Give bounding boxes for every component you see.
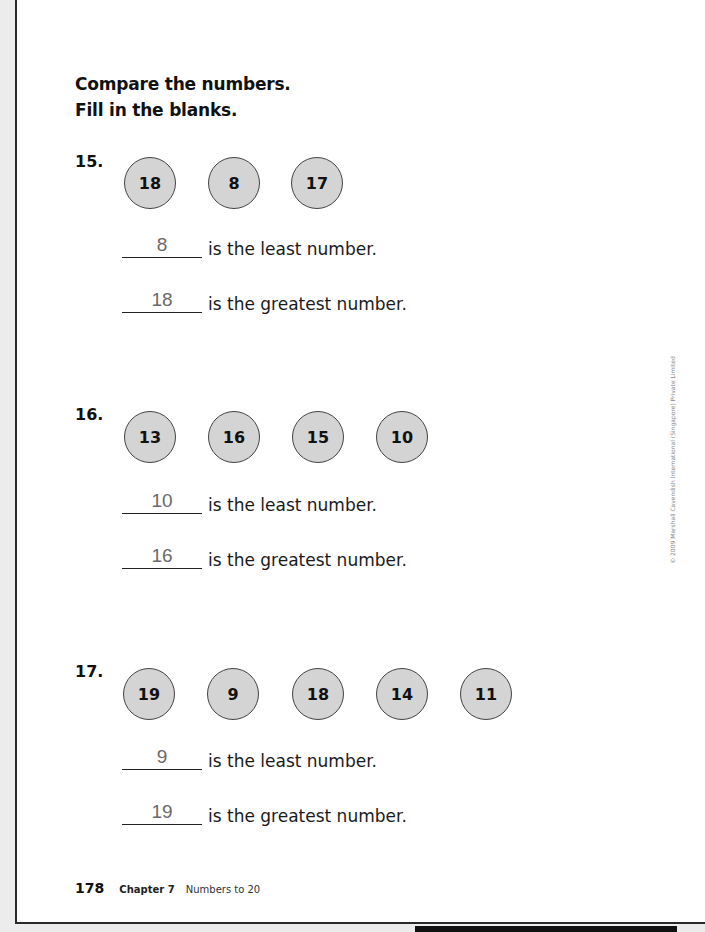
number-circle: 15 [292, 411, 344, 463]
greatest-answer-row: 18 is the greatest number. [122, 287, 442, 317]
greatest-answer-blank[interactable]: 19 [122, 802, 202, 825]
least-answer-blank[interactable]: 9 [122, 747, 202, 770]
greatest-answer-row: 19 is the greatest number. [122, 799, 442, 829]
number-circle: 11 [460, 668, 512, 720]
instruction-line-2: Fill in the blanks. [75, 100, 237, 120]
least-answer-blank[interactable]: 10 [122, 491, 202, 514]
greatest-answer-blank[interactable]: 16 [122, 546, 202, 569]
workbook-page [15, 0, 705, 924]
number-circle: 17 [291, 157, 343, 209]
greatest-answer-text: is the greatest number. [208, 294, 407, 314]
least-answer-blank[interactable]: 8 [122, 235, 202, 258]
number-circle: 10 [376, 411, 428, 463]
least-answer-row: 8 is the least number. [122, 232, 442, 262]
number-circle: 14 [376, 668, 428, 720]
question-16-label: 16. [75, 405, 103, 424]
least-answer-text: is the least number. [208, 495, 377, 515]
number-circle: 13 [124, 411, 176, 463]
question-17-label: 17. [75, 662, 103, 681]
least-answer-row: 9 is the least number. [122, 744, 442, 774]
greatest-answer-text: is the greatest number. [208, 806, 407, 826]
number-circle: 16 [208, 411, 260, 463]
number-circle: 8 [208, 157, 260, 209]
least-answer-text: is the least number. [208, 239, 377, 259]
number-circle: 9 [207, 668, 259, 720]
number-circle: 18 [124, 157, 176, 209]
page-number: 178 [75, 880, 104, 896]
page-footer: 178 Chapter 7 Numbers to 20 [75, 878, 260, 897]
chapter-label: Chapter 7 [119, 884, 174, 895]
greatest-answer-row: 16 is the greatest number. [122, 543, 442, 573]
number-circle: 18 [292, 668, 344, 720]
least-answer-row: 10 is the least number. [122, 488, 442, 518]
number-circle: 19 [123, 668, 175, 720]
copyright-notice: © 2009 Marshall Cavendish International … [669, 356, 676, 564]
greatest-answer-text: is the greatest number. [208, 550, 407, 570]
bottom-black-bar [415, 926, 677, 932]
instruction-line-1: Compare the numbers. [75, 74, 291, 94]
least-answer-text: is the least number. [208, 751, 377, 771]
chapter-title: Numbers to 20 [186, 884, 261, 895]
greatest-answer-blank[interactable]: 18 [122, 290, 202, 313]
question-15-label: 15. [75, 152, 103, 171]
